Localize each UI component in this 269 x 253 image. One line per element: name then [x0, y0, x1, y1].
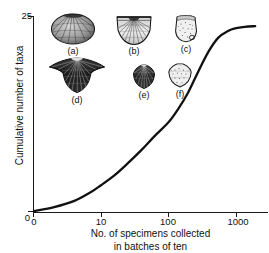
- specimen-a-drawing: [50, 12, 96, 46]
- specimen-f-drawing: [166, 61, 194, 89]
- specimen-b-drawing: [114, 13, 154, 46]
- specimen-e-drawing: [131, 62, 157, 90]
- specimen-d-label: (d): [48, 96, 106, 105]
- specimen-a: (a): [50, 12, 96, 46]
- figure-canvas: . . . . . . . . . . . . . . . . . . . 25…: [0, 0, 269, 253]
- specimen-b: (b): [114, 13, 154, 46]
- specimen-d-drawing: [48, 55, 106, 95]
- specimen-b-label: (b): [114, 47, 154, 56]
- specimen-d: (d): [48, 55, 106, 95]
- specimen-f-label: (f): [166, 90, 194, 99]
- specimen-e-label: (e): [131, 91, 157, 100]
- specimen-c-drawing: [172, 13, 200, 43]
- specimen-f: (f): [166, 61, 194, 89]
- specimen-e: (e): [131, 62, 157, 90]
- specimen-c-label: (c): [172, 45, 200, 54]
- specimen-c: (c): [172, 13, 200, 43]
